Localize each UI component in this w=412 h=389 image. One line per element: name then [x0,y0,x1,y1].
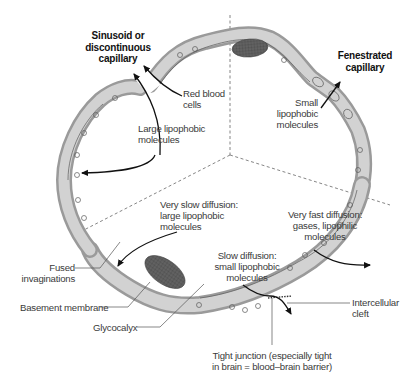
label-intercellular-cleft: Intercellular cleft [352,297,399,319]
label-small-lipophobic-fenestrated: Small lipophobic molecules [270,97,318,130]
fenestrated-title: Fenestrated capillary [325,50,405,73]
sinusoid-title: Sinusoid or discontinuous capillary [68,30,168,65]
label-large-lipophobic: Large lipophobic molecules [138,123,205,145]
label-glycocalyx: Glycocalyx [93,322,137,333]
label-very-fast-diffusion: Very fast diffusion: gases, lipophilic m… [275,209,375,242]
label-slow-diffusion: Slow diffusion: small lipophobic molecul… [212,250,282,283]
label-fused-invaginations: Fused invaginations [20,262,75,284]
label-very-slow-diffusion: Very slow diffusion: large lipophobic mo… [160,199,238,232]
label-basement-membrane: Basement membrane [20,302,108,313]
label-red-blood-cells: Red blood cells [183,88,225,110]
label-tight-junction: Tight junction (especially tight in brai… [212,350,332,372]
